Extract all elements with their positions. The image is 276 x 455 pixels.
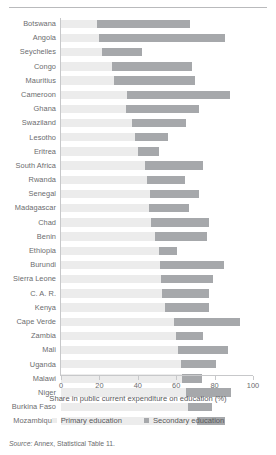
- bar-segment-primary: [61, 119, 132, 127]
- bar-segment-secondary: [181, 360, 216, 368]
- category-label: Chad: [0, 216, 56, 230]
- bar-row: Kenya: [0, 301, 276, 315]
- x-tick-label: 0: [59, 381, 63, 390]
- category-label: Eritrea: [0, 145, 56, 159]
- bar-track: [61, 119, 253, 127]
- bar-row: Mauritius: [0, 74, 276, 88]
- category-label: Botswana: [0, 17, 56, 31]
- bar-segment-primary: [61, 76, 114, 84]
- bar-segment-primary: [61, 232, 155, 240]
- legend-swatch-primary: [52, 418, 58, 424]
- bar-track: [61, 261, 253, 269]
- bar-row: Uganda: [0, 358, 276, 372]
- bar-segment-secondary: [162, 289, 209, 297]
- bar-segment-secondary: [149, 204, 189, 212]
- category-label: Kenya: [0, 301, 56, 315]
- bar-segment-secondary: [178, 346, 228, 354]
- bar-segment-secondary: [159, 247, 177, 255]
- legend-swatch-secondary: [144, 418, 150, 424]
- source-label: Source:: [9, 440, 32, 447]
- category-label: Cape Verde: [0, 315, 56, 329]
- x-axis-line: [61, 375, 253, 376]
- bar-segment-primary: [61, 48, 102, 56]
- bar-segment-primary: [61, 360, 181, 368]
- bar-segment-primary: [61, 34, 99, 42]
- bar-track: [61, 232, 253, 240]
- bar-track: [61, 176, 253, 184]
- bar-row: Madagascar: [0, 201, 276, 215]
- bar-row: Zambia: [0, 329, 276, 343]
- bar-row: Swaziland: [0, 116, 276, 130]
- bar-track: [61, 346, 253, 354]
- bar-row: Seychelles: [0, 45, 276, 59]
- bar-track: [61, 147, 253, 155]
- bar-segment-secondary: [112, 62, 192, 70]
- legend-item: Secondary education: [144, 416, 224, 425]
- bar-track: [61, 190, 253, 198]
- plot-area: BotswanaAngolaSeychellesCongoMauritiusCa…: [0, 17, 276, 377]
- x-tick-mark: [253, 376, 254, 380]
- bar-segment-secondary: [151, 218, 208, 226]
- bar-segment-primary: [61, 204, 149, 212]
- category-label: Ghana: [0, 102, 56, 116]
- x-tick-mark: [61, 376, 62, 380]
- bar-row: Lesotho: [0, 131, 276, 145]
- bar-rows: BotswanaAngolaSeychellesCongoMauritiusCa…: [0, 17, 276, 428]
- bar-track: [61, 204, 253, 212]
- bar-row: Burundi: [0, 258, 276, 272]
- category-label: Benin: [0, 230, 56, 244]
- x-tick-mark: [215, 376, 216, 380]
- category-label: Ethiopia: [0, 244, 56, 258]
- bar-segment-primary: [61, 332, 176, 340]
- bar-segment-secondary: [135, 133, 168, 141]
- bar-row: Sierra Leone: [0, 272, 276, 286]
- category-label: Congo: [0, 60, 56, 74]
- bar-segment-secondary: [174, 318, 240, 326]
- category-label: Burundi: [0, 258, 56, 272]
- bar-track: [61, 161, 253, 169]
- bar-segment-primary: [61, 62, 112, 70]
- bar-segment-secondary: [155, 232, 207, 240]
- bar-segment-secondary: [145, 161, 203, 169]
- bar-segment-primary: [61, 289, 162, 297]
- legend-label: Primary education: [61, 416, 122, 425]
- category-label: Zambia: [0, 329, 56, 343]
- bar-track: [61, 247, 253, 255]
- x-tick-label: 60: [172, 381, 180, 390]
- source-text: Annex, Statistical Table 11.: [32, 440, 115, 447]
- bar-segment-primary: [61, 275, 161, 283]
- bar-row: Cape Verde: [0, 315, 276, 329]
- y-axis-line: [60, 18, 61, 376]
- bar-segment-primary: [61, 403, 188, 411]
- bar-row: Chad: [0, 216, 276, 230]
- source-note: Source: Annex, Statistical Table 11.: [9, 440, 115, 447]
- bar-segment-secondary: [102, 48, 143, 56]
- bar-segment-primary: [61, 190, 150, 198]
- bar-segment-secondary: [126, 105, 199, 113]
- x-tick-label: 40: [134, 381, 142, 390]
- legend-item: Primary education: [52, 416, 122, 425]
- category-label: Senegal: [0, 187, 56, 201]
- category-label: Seychelles: [0, 45, 56, 59]
- category-label: Lesotho: [0, 131, 56, 145]
- bar-track: [61, 289, 253, 297]
- bar-track: [61, 303, 253, 311]
- bar-track: [61, 332, 253, 340]
- category-label: Madagascar: [0, 201, 56, 215]
- bar-track: [61, 360, 253, 368]
- bar-segment-primary: [61, 346, 178, 354]
- legend-label: Secondary education: [153, 416, 224, 425]
- bar-segment-secondary: [132, 119, 185, 127]
- category-label: Mauritius: [0, 74, 56, 88]
- bar-segment-primary: [61, 176, 147, 184]
- bar-row: Senegal: [0, 187, 276, 201]
- bar-row: Mali: [0, 343, 276, 357]
- bar-segment-primary: [61, 147, 138, 155]
- bar-track: [61, 91, 253, 99]
- bar-row: Benin: [0, 230, 276, 244]
- bar-row: Rwanda: [0, 173, 276, 187]
- bar-segment-primary: [61, 318, 174, 326]
- bar-segment-primary: [61, 261, 160, 269]
- x-tick-label: 80: [210, 381, 218, 390]
- category-label: Malawi: [0, 372, 56, 386]
